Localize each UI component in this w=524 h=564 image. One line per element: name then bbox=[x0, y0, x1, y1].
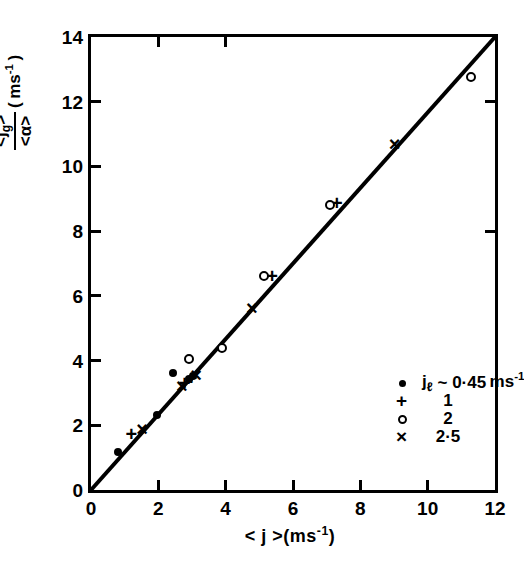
data-point-cross-3-0: × bbox=[134, 419, 150, 439]
data-point-filled-circle-0-1 bbox=[153, 411, 161, 419]
x-tick-label-10: 10 bbox=[417, 499, 438, 518]
y-tick-label-8: 8 bbox=[72, 222, 83, 241]
legend-value-1: 1 bbox=[422, 392, 474, 409]
data-point-open-circle-2-3 bbox=[325, 200, 335, 210]
legend-label-3: 2·5 bbox=[422, 428, 474, 445]
y-axis-units: ( ms-1 ) bbox=[3, 55, 25, 108]
legend-units: ms-1 bbox=[490, 372, 524, 391]
x-tick-label-8: 8 bbox=[355, 499, 366, 518]
y-tick-label-2: 2 bbox=[72, 416, 83, 435]
y-tick-10 bbox=[88, 165, 101, 168]
x-tick-6 bbox=[292, 480, 295, 493]
legend-row-0: jℓ ~ 0·45 ms-1 bbox=[396, 374, 524, 392]
data-point-open-circle-2-2 bbox=[259, 271, 269, 281]
y-axis-denominator: <α> bbox=[16, 113, 35, 149]
x-tick-label-4: 4 bbox=[220, 499, 231, 518]
y-axis-fraction: <jg> <α> bbox=[0, 112, 35, 150]
legend-symbol-name: jℓ bbox=[422, 372, 433, 391]
y-tick-right-12 bbox=[485, 100, 498, 103]
y-axis-numerator-subscript: g bbox=[0, 125, 13, 132]
cross-icon: × bbox=[396, 427, 407, 446]
legend-symbol-open-circle-icon bbox=[396, 410, 422, 428]
legend-symbol-cross-icon: × bbox=[396, 428, 422, 446]
legend-symbol-plus-icon: + bbox=[396, 392, 422, 410]
x-tick-label-6: 6 bbox=[288, 499, 299, 518]
y-tick-label-6: 6 bbox=[72, 286, 83, 305]
data-point-open-circle-2-0 bbox=[184, 354, 194, 364]
legend-row-1: +1 bbox=[396, 392, 524, 410]
y-tick-label-0: 0 bbox=[72, 481, 83, 500]
legend-tilde: ~ bbox=[437, 372, 447, 391]
x-tick-top-2 bbox=[157, 34, 160, 47]
data-point-open-circle-2-1 bbox=[217, 343, 227, 353]
x-tick-2 bbox=[157, 480, 160, 493]
filled-circle-icon bbox=[399, 380, 406, 387]
legend-label-0: jℓ ~ 0·45 ms-1 bbox=[422, 372, 524, 395]
data-point-plus-1-1: + bbox=[177, 373, 193, 393]
y-tick-4 bbox=[88, 359, 101, 362]
data-point-open-circle-2-4 bbox=[466, 72, 476, 82]
y-tick-label-10: 10 bbox=[62, 157, 83, 176]
x-tick-top-4 bbox=[224, 34, 227, 47]
data-point-plus-1-0: + bbox=[123, 424, 139, 444]
x-tick-4 bbox=[224, 480, 227, 493]
plus-icon: + bbox=[396, 391, 407, 410]
x-tick-10 bbox=[426, 480, 429, 493]
data-point-cross-3-4: × bbox=[387, 134, 403, 154]
data-point-filled-circle-0-4 bbox=[189, 372, 197, 380]
legend-value-0: 0·45 bbox=[452, 372, 486, 391]
y-tick-label-14: 14 bbox=[62, 28, 83, 47]
data-point-plus-1-2: + bbox=[183, 368, 199, 388]
y-tick-right-8 bbox=[485, 230, 498, 233]
y-axis-numerator: <jg> bbox=[0, 112, 16, 150]
data-point-filled-circle-0-2 bbox=[169, 369, 177, 377]
legend-row-3: ×2·5 bbox=[396, 428, 524, 446]
y-tick-6 bbox=[88, 294, 101, 297]
x-axis-quantity: < j > bbox=[245, 526, 284, 546]
legend-value-3: 2·5 bbox=[422, 428, 474, 445]
data-point-cross-3-2: × bbox=[188, 365, 204, 385]
x-tick-8 bbox=[359, 480, 362, 493]
legend: jℓ ~ 0·45 ms-1+12×2·5 bbox=[396, 374, 524, 446]
y-tick-label-12: 12 bbox=[62, 92, 83, 111]
y-axis-title: <jg> <α> ( ms-1 ) bbox=[0, 0, 35, 150]
x-tick-label-12: 12 bbox=[484, 499, 505, 518]
open-circle-icon bbox=[398, 415, 407, 424]
y-tick-8 bbox=[88, 230, 101, 233]
data-point-cross-3-3: × bbox=[244, 298, 260, 318]
data-point-filled-circle-0-3 bbox=[185, 375, 193, 383]
x-axis-title: < j >(ms-1) bbox=[88, 524, 492, 547]
data-point-plus-1-4: + bbox=[329, 193, 345, 213]
data-point-cross-3-1: × bbox=[174, 376, 190, 396]
data-point-plus-1-3: + bbox=[264, 266, 280, 286]
figure-scatter-plot: <jg> <α> ( ms-1 ) < j >(ms-1) 0246810121… bbox=[0, 0, 524, 564]
x-tick-label-2: 2 bbox=[153, 499, 164, 518]
data-point-filled-circle-0-0 bbox=[114, 448, 122, 456]
x-axis-units: (ms-1) bbox=[283, 526, 335, 546]
plot-area: 02468101214 024681012 +++++××××× jℓ ~ 0·… bbox=[88, 34, 498, 493]
x-axis-units-exponent: -1 bbox=[317, 524, 329, 538]
y-tick-12 bbox=[88, 100, 101, 103]
x-tick-label-0: 0 bbox=[86, 499, 97, 518]
legend-symbol-filled-circle-icon bbox=[396, 374, 422, 392]
legend-label-2: 2 bbox=[422, 410, 474, 427]
y-axis-units-exponent: -1 bbox=[3, 64, 15, 74]
y-tick-label-4: 4 bbox=[72, 351, 83, 370]
y-tick-2 bbox=[88, 424, 101, 427]
legend-label-1: 1 bbox=[422, 392, 474, 409]
legend-row-2: 2 bbox=[396, 410, 524, 428]
legend-value-2: 2 bbox=[422, 410, 474, 427]
